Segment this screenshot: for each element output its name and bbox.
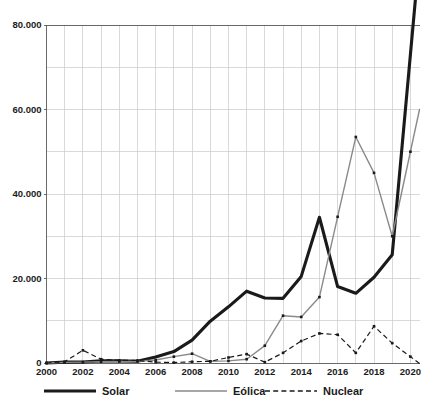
data-point-marker <box>318 296 321 299</box>
data-point-marker <box>173 355 176 358</box>
data-point-marker <box>227 360 230 363</box>
data-point-marker <box>409 355 412 358</box>
legend-label: Eólica <box>233 385 266 397</box>
x-tick-label: 2006 <box>145 366 166 377</box>
data-point-marker <box>300 340 303 343</box>
data-point-marker <box>318 332 321 335</box>
data-point-marker <box>391 342 394 345</box>
legend-label: Solar <box>102 385 130 397</box>
line-chart: 020.00040.00060.00080.000 20002002200420… <box>0 0 440 416</box>
data-point-marker <box>264 344 267 347</box>
y-tick-label: 60.000 <box>12 104 41 115</box>
x-tick-label: 2020 <box>400 366 421 377</box>
data-point-marker <box>245 358 248 361</box>
data-point-marker <box>282 352 285 355</box>
data-point-marker <box>409 150 412 153</box>
data-point-marker <box>63 360 66 363</box>
chart-container: 020.00040.00060.00080.000 20002002200420… <box>0 0 440 416</box>
x-tick-label: 2004 <box>109 366 131 377</box>
data-point-marker <box>173 361 176 364</box>
data-point-marker <box>336 333 339 336</box>
grid-lines <box>47 25 420 363</box>
y-tick-label: 20.000 <box>12 273 41 284</box>
legend-item-eolica[interactable]: Eólica <box>175 385 266 397</box>
data-point-marker <box>82 349 85 352</box>
data-point-marker <box>336 216 339 219</box>
y-tick-label: 40.000 <box>12 188 41 199</box>
data-point-marker <box>191 360 194 363</box>
data-point-marker <box>82 361 85 364</box>
y-axis-tick-labels: 020.00040.00060.00080.000 <box>12 19 46 368</box>
data-point-marker <box>300 316 303 319</box>
data-point-marker <box>227 356 230 359</box>
x-tick-label: 2002 <box>72 366 93 377</box>
data-point-marker <box>154 361 157 364</box>
x-tick-label: 2000 <box>36 366 57 377</box>
x-tick-label: 2008 <box>181 366 202 377</box>
data-point-marker <box>355 352 358 355</box>
data-point-marker <box>100 358 103 361</box>
data-point-marker <box>282 314 285 317</box>
data-point-marker <box>118 359 121 362</box>
x-tick-label: 2012 <box>254 366 275 377</box>
x-axis-tick-labels: 2000200220042006200820102012201420162018… <box>36 366 421 377</box>
legend-item-nuclear[interactable]: Nuclear <box>265 385 364 397</box>
chart-legend: SolarEólicaNuclear <box>44 385 364 397</box>
data-point-marker <box>209 360 212 363</box>
series-line-nuclear <box>47 326 420 363</box>
data-point-marker <box>391 235 394 238</box>
x-tick-label: 2016 <box>327 366 348 377</box>
data-point-marker <box>45 362 48 365</box>
y-tick-label: 80.000 <box>12 19 41 30</box>
series-line-solar <box>47 0 420 363</box>
data-point-marker <box>373 325 376 328</box>
legend-label: Nuclear <box>323 385 364 397</box>
data-point-marker <box>373 172 376 175</box>
data-point-marker <box>100 360 103 363</box>
data-point-marker <box>136 359 139 362</box>
x-tick-label: 2010 <box>218 366 239 377</box>
series-lines <box>47 0 420 363</box>
data-point-marker <box>264 361 267 364</box>
data-point-marker <box>355 136 358 139</box>
x-tick-label: 2018 <box>363 366 384 377</box>
data-point-marker <box>191 352 194 355</box>
x-tick-label: 2014 <box>291 366 313 377</box>
data-point-marker <box>245 353 248 356</box>
legend-item-solar[interactable]: Solar <box>44 385 130 397</box>
